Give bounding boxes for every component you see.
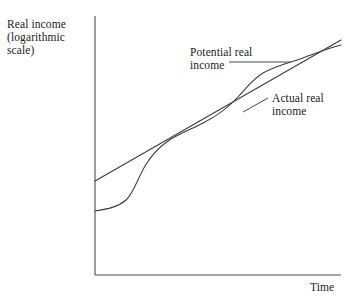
actual-real-income-label: Actual real income (272, 92, 352, 118)
potential-real-income-label: Potential real income (190, 46, 285, 72)
y-axis-label: Real income (logarithmic scale) (7, 18, 107, 58)
chart-figure: Real income (logarithmic scale) Time Pot… (0, 0, 352, 301)
actual-label-leader-line (243, 98, 268, 112)
x-axis-label: Time (310, 281, 334, 294)
